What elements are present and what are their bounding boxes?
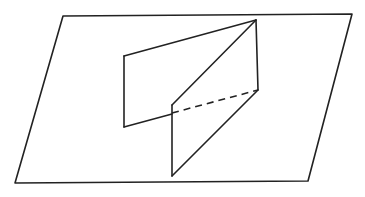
segments-group bbox=[124, 20, 258, 176]
back-right-vertical-edge bbox=[256, 20, 258, 90]
common-edge-diagonal bbox=[172, 20, 256, 105]
hidden-intersection-line bbox=[172, 90, 258, 113]
front-panel-diagonal-edge bbox=[172, 90, 258, 176]
back-panel-top-edge bbox=[124, 20, 256, 56]
dihedral-diagram bbox=[0, 0, 365, 197]
back-panel-bottom-edge bbox=[124, 114, 172, 127]
diagram-canvas bbox=[0, 0, 365, 197]
